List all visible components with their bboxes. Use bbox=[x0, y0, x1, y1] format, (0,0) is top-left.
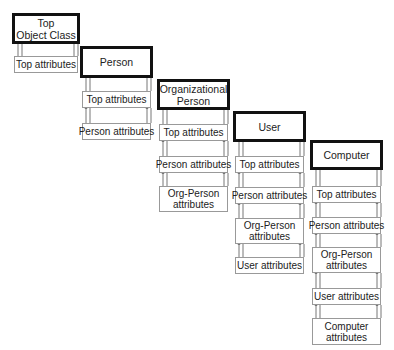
class-label: TopObject Class bbox=[16, 17, 76, 41]
attribute-label: User attributes bbox=[237, 260, 302, 271]
attribute-box: Top attributes bbox=[235, 156, 304, 173]
class-box-computer: Computer bbox=[310, 140, 383, 170]
attribute-label: Top attributes bbox=[163, 127, 223, 138]
attribute-box: Computerattributes bbox=[312, 318, 381, 345]
class-label: Person bbox=[100, 56, 133, 68]
attribute-box: Top attributes bbox=[82, 91, 151, 108]
attribute-box: Person attributes bbox=[82, 123, 151, 140]
attribute-label: Top attributes bbox=[239, 159, 299, 170]
attribute-box: Person attributes bbox=[235, 187, 304, 204]
attribute-label: Person attributes bbox=[156, 159, 232, 170]
attribute-box: Org-Personattributes bbox=[159, 186, 228, 212]
class-label: Computer bbox=[323, 149, 369, 161]
class-label: User bbox=[258, 121, 280, 133]
class-box-top-object-class: TopObject Class bbox=[12, 13, 80, 44]
attribute-box: Person attributes bbox=[312, 217, 381, 234]
attribute-box: Person attributes bbox=[159, 156, 228, 173]
attribute-label: User attributes bbox=[314, 291, 379, 302]
attribute-label: Computerattributes bbox=[325, 321, 369, 343]
attribute-box: User attributes bbox=[235, 257, 304, 274]
attribute-label: Person attributes bbox=[309, 220, 385, 231]
attribute-label: Top attributes bbox=[86, 94, 146, 105]
attribute-box: Top attributes bbox=[159, 124, 228, 141]
attribute-label: Org-Personattributes bbox=[321, 249, 373, 271]
attribute-label: Org-Personattributes bbox=[168, 188, 220, 210]
class-box-person: Person bbox=[80, 46, 153, 78]
class-label: OrganizationalPerson bbox=[160, 83, 228, 107]
class-box-organizational-person: OrganizationalPerson bbox=[157, 79, 230, 110]
attribute-box: Org-Personattributes bbox=[312, 247, 381, 273]
attribute-label: Top attributes bbox=[16, 59, 76, 70]
attribute-label: Person attributes bbox=[79, 126, 155, 137]
attribute-box: Top attributes bbox=[14, 56, 78, 73]
attribute-box: Top attributes bbox=[312, 186, 381, 203]
attribute-box: Org-Personattributes bbox=[235, 218, 304, 244]
attribute-label: Person attributes bbox=[232, 190, 308, 201]
class-box-user: User bbox=[233, 111, 306, 142]
attribute-label: Org-Personattributes bbox=[244, 220, 296, 242]
attribute-box: User attributes bbox=[312, 288, 381, 305]
attribute-label: Top attributes bbox=[316, 189, 376, 200]
